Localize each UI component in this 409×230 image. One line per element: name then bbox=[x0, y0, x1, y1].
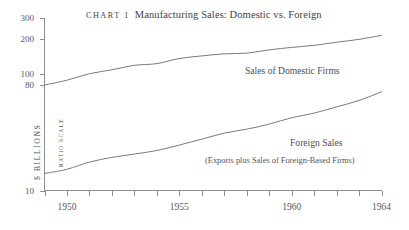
chart-container: Chart 1Manufacturing Sales: Domestic vs.… bbox=[0, 0, 409, 230]
series-annotation-foreign: Foreign Sales bbox=[290, 138, 343, 148]
y-tick-label: 80 bbox=[8, 81, 34, 90]
y-tick-label: 100 bbox=[8, 70, 34, 79]
series-lines bbox=[45, 35, 382, 173]
y-tick-label: 300 bbox=[8, 14, 34, 23]
y-tick-label: 200 bbox=[8, 35, 34, 44]
series-annotation-domestic: Sales of Domestic Firms bbox=[245, 66, 340, 76]
series-annotation-foreign-sub: (Exports plus Sales of Foreign-Based Fir… bbox=[205, 157, 355, 165]
x-axis-ticks bbox=[46, 191, 383, 196]
series-line-domestic bbox=[45, 35, 382, 85]
x-tick-label: 1950 bbox=[47, 203, 87, 213]
x-tick-label: 1960 bbox=[272, 203, 312, 213]
x-tick-label: 1955 bbox=[159, 203, 199, 213]
y-axis-title: $ BILLIONS bbox=[34, 124, 42, 180]
x-axis bbox=[45, 191, 383, 196]
y-tick-label: 10 bbox=[8, 187, 34, 196]
plot-area bbox=[0, 0, 409, 230]
ratio-scale-note: RATIO SCALE bbox=[59, 118, 65, 167]
x-tick-label: 1964 bbox=[362, 203, 402, 213]
